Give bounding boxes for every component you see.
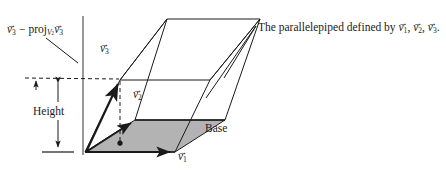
v-letter: v [7, 23, 12, 35]
edge-mid-left [120, 19, 167, 80]
vector-v3-label: →v3 [100, 43, 109, 56]
top-parallelogram [120, 19, 260, 80]
caption-text: The parallelepiped defined by [258, 21, 396, 33]
dashed-level-line [25, 78, 119, 79]
v1-symbol: →v [178, 151, 183, 163]
vector-v1-label: →v1 [178, 151, 187, 164]
base-parallelogram [85, 120, 225, 152]
caption-leader-line-2 [206, 26, 256, 98]
projection-leader-line [46, 38, 78, 63]
edge-back-left [135, 19, 167, 120]
v-letter: v [54, 23, 59, 35]
caption-v2-symbol: →v [413, 22, 418, 34]
parallelepiped-figure: →v3−projV2→v3 →v3 →v2 →v1 Height Base Th… [0, 0, 446, 171]
v-letter: v [399, 21, 404, 33]
v2-symbol: →v [133, 89, 138, 101]
period: . [437, 21, 440, 33]
caption-v1-symbol: →v [399, 22, 404, 34]
edge-mid-right [210, 19, 260, 80]
subscript-3: 3 [105, 47, 109, 56]
projection-expression-label: →v3−projV2→v3 [7, 24, 63, 37]
caption-v3-symbol: →v [428, 22, 433, 34]
v-letter: v [100, 42, 105, 54]
subscript-2: 2 [138, 93, 142, 102]
vector-v2-label: →v2 [133, 89, 142, 102]
v-letter: v [178, 150, 183, 162]
minus-sign: − [16, 23, 29, 35]
subscript-3: 3 [59, 28, 63, 37]
v-letter: v [428, 21, 433, 33]
v-letter: v [413, 21, 418, 33]
proj-operator: proj [28, 23, 47, 35]
height-label: Height [33, 106, 64, 118]
v3-symbol: →v [100, 43, 105, 55]
v3-symbol-proj-right: →v [54, 24, 59, 36]
foot-point-dot [117, 140, 122, 145]
figure-caption: The parallelepiped defined by →v1, →v2, … [258, 22, 440, 35]
edge-back-right [225, 19, 260, 120]
base-label: Base [205, 123, 227, 135]
subscript-1: 1 [183, 155, 187, 164]
v3-symbol-proj-left: →v [7, 24, 12, 36]
caption-leader-line [224, 26, 256, 78]
v-letter: v [133, 88, 138, 100]
